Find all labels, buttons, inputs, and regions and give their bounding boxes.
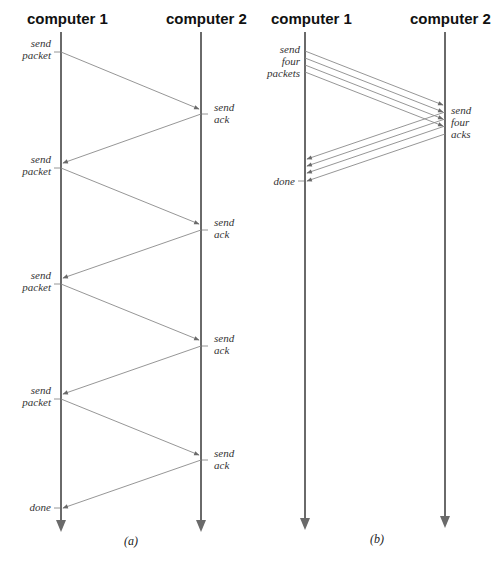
panel-a: computer 1 computer 2 send packet send p… [21, 10, 247, 548]
label-send: send [214, 447, 235, 459]
label-packet: packet [21, 396, 52, 408]
label-send: send [214, 216, 235, 228]
label-four: four [451, 116, 470, 128]
ack-arrow [63, 346, 201, 394]
ack-arrow [63, 460, 201, 508]
panel-b-caption: (b) [370, 532, 384, 546]
panel-b-left-labels: send four packets done [266, 43, 304, 187]
label-ack: ack [214, 459, 230, 471]
label-four: four [282, 55, 301, 67]
timeline-arrowhead-icon [196, 520, 206, 532]
ack-arrow [63, 114, 201, 163]
label-send: send [31, 384, 52, 396]
packet-arrow [305, 65, 443, 119]
panel-a-left-labels: send packet send packet send packet send… [21, 37, 60, 513]
label-send: send [31, 37, 52, 49]
label-send: send [451, 104, 472, 116]
packet-arrow [305, 58, 443, 112]
panel-b: computer 1 computer 2 send four packets … [266, 10, 491, 546]
sequence-diagram: computer 1 computer 2 send packet send p… [0, 0, 495, 563]
label-packet: packet [21, 165, 52, 177]
label-done: done [30, 501, 52, 513]
ack-arrow [307, 126, 445, 173]
packet-arrow [61, 168, 199, 224]
label-send: send [214, 332, 235, 344]
label-done: done [274, 175, 296, 187]
ack-arrow [63, 230, 201, 278]
label-packet: packet [21, 49, 52, 61]
panel-a-caption: (a) [124, 534, 138, 548]
label-send: send [31, 153, 52, 165]
panel-a-computer-2-header: computer 2 [166, 10, 247, 27]
panel-a-messages [61, 52, 201, 508]
panel-a-computer-1-header: computer 1 [27, 10, 108, 27]
label-ack: ack [214, 228, 230, 240]
label-send: send [214, 101, 235, 113]
label-ack: ack [214, 113, 230, 125]
label-acks: acks [451, 128, 471, 140]
panel-b-computer-1-header: computer 1 [271, 10, 352, 27]
label-packets: packets [266, 67, 300, 79]
timeline-arrowhead-icon [300, 518, 310, 530]
packet-arrow [305, 51, 443, 105]
packet-arrow [61, 52, 199, 109]
label-ack: ack [214, 344, 230, 356]
label-send: send [31, 269, 52, 281]
packet-arrow [61, 284, 199, 340]
panel-b-right-labels: send four acks [451, 104, 472, 140]
panel-b-messages [305, 51, 445, 181]
timeline-arrowhead-icon [56, 520, 66, 532]
timeline-arrowhead-icon [440, 516, 450, 528]
panel-a-right-labels: send ack send ack send ack send ack [202, 101, 235, 471]
ack-arrow [307, 112, 445, 159]
packet-arrow [305, 72, 443, 126]
packet-arrow [61, 399, 199, 455]
ack-arrow [307, 119, 445, 166]
label-packet: packet [21, 281, 52, 293]
label-send: send [280, 43, 301, 55]
panel-b-computer-2-header: computer 2 [410, 10, 491, 27]
ack-arrow [307, 134, 445, 181]
